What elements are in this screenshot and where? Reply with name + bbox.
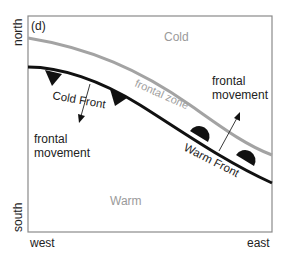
plot-frame <box>28 16 272 232</box>
panel-label: (d) <box>31 19 46 33</box>
cold-front-triangle-icon <box>45 70 62 86</box>
cold-front-label: Cold Front <box>52 89 108 110</box>
arrow-down-icon <box>78 114 85 123</box>
movement-label-left-1: frontal <box>34 132 67 146</box>
region-cold-label: Cold <box>164 30 189 44</box>
weather-front-diagram: (d) Cold Warm Cold Front Warm Front fron… <box>0 0 285 256</box>
movement-label-left-2: movement <box>34 146 91 160</box>
warm-front-semicircle-icon <box>236 150 256 166</box>
axis-east-label: east <box>247 236 270 250</box>
arrow-up-icon <box>234 112 240 121</box>
movement-label-right-1: frontal <box>212 74 245 88</box>
region-warm-label: Warm <box>110 194 142 208</box>
axis-north-label: north <box>11 19 25 46</box>
axis-west-label: west <box>29 236 55 250</box>
warm-front-label: Warm Front <box>182 141 242 179</box>
movement-label-right-2: movement <box>212 88 269 102</box>
axis-south-label: south <box>11 203 25 232</box>
